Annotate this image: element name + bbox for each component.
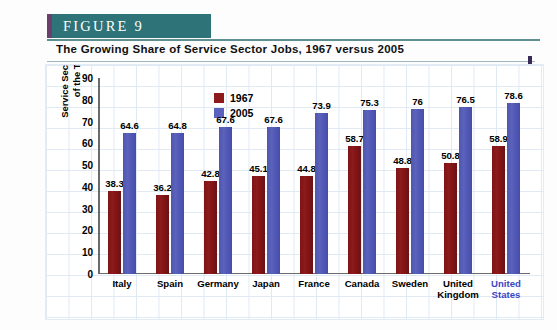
bar-value-label: 50.8 xyxy=(441,150,460,161)
bar-value-label: 48.8 xyxy=(393,155,412,166)
bar-group: 50.876.5UnitedKingdom xyxy=(434,78,482,274)
bar-value-label: 76.5 xyxy=(456,94,475,105)
plot-area: 1967 2005 9080706050403020100 38.364.6It… xyxy=(98,78,530,274)
bar-1967-sweden[interactable]: 48.8 xyxy=(396,168,409,274)
bar-slot: 58.7 xyxy=(348,78,361,274)
bar-value-label: 45.1 xyxy=(249,163,268,174)
y-tick-label: 90 xyxy=(82,73,93,84)
y-tick-label: 30 xyxy=(82,203,93,214)
bar-2005-united-states[interactable]: 78.6 xyxy=(507,103,520,274)
bar-value-label: 64.6 xyxy=(120,120,139,131)
y-tick-label: 50 xyxy=(82,160,93,171)
bar-1967-united-states[interactable]: 58.9 xyxy=(492,146,505,274)
bar-1967-spain[interactable]: 36.2 xyxy=(156,195,169,274)
bar-1967-italy[interactable]: 38.3 xyxy=(108,191,121,274)
bar-value-label: 67.6 xyxy=(216,114,235,125)
bar-slot: 45.1 xyxy=(252,78,265,274)
bar-group: 38.364.6Italy xyxy=(98,78,146,274)
bar-slot: 76.5 xyxy=(459,78,472,274)
subtitle-rule xyxy=(47,61,535,62)
bar-1967-united-kingdom[interactable]: 50.8 xyxy=(444,163,457,274)
y-tick-label: 60 xyxy=(82,138,93,149)
bar-group: 58.775.3Canada xyxy=(338,78,386,274)
bar-2005-canada[interactable]: 75.3 xyxy=(363,110,376,274)
figure-banner: FIGURE 9 xyxy=(47,14,211,38)
figure-banner-label: FIGURE 9 xyxy=(52,18,144,35)
bar-slot: 42.8 xyxy=(204,78,217,274)
bar-slot: 67.6 xyxy=(219,78,232,274)
subtitle-endcap xyxy=(528,56,532,64)
bar-group: 36.264.8Spain xyxy=(146,78,194,274)
y-axis-title-line1: Service Sector Jobs as a Percent xyxy=(59,64,70,118)
banner-rule xyxy=(47,39,540,41)
bar-1967-france[interactable]: 44.8 xyxy=(300,176,313,274)
y-tick-label: 40 xyxy=(82,181,93,192)
bar-2005-spain[interactable]: 64.8 xyxy=(171,133,184,274)
bar-1967-japan[interactable]: 45.1 xyxy=(252,176,265,274)
category-label-united-states: UnitedStates xyxy=(475,278,537,300)
bar-value-label: 75.3 xyxy=(360,97,379,108)
bar-slot: 50.8 xyxy=(444,78,457,274)
bar-value-label: 58.9 xyxy=(489,133,508,144)
bar-group: 42.867.6Germany xyxy=(194,78,242,274)
y-axis-title: Service Sector Jobs as a Percent of the … xyxy=(59,64,83,129)
bar-slot: 64.6 xyxy=(123,78,136,274)
y-tick-label: 70 xyxy=(82,116,93,127)
bar-value-label: 58.7 xyxy=(345,133,364,144)
bar-2005-japan[interactable]: 67.6 xyxy=(267,127,280,274)
figure-subtitle: The Growing Share of Service Sector Jobs… xyxy=(56,43,404,55)
bar-value-label: 67.6 xyxy=(264,114,283,125)
bar-slot: 48.8 xyxy=(396,78,409,274)
bar-2005-sweden[interactable]: 76 xyxy=(411,109,424,275)
bar-value-label: 36.2 xyxy=(153,182,172,193)
bar-value-label: 44.8 xyxy=(297,163,316,174)
bar-value-label: 78.6 xyxy=(504,90,523,101)
bar-slot: 38.3 xyxy=(108,78,121,274)
bar-group: 44.873.9France xyxy=(290,78,338,274)
bar-value-label: 76 xyxy=(412,96,423,107)
y-axis-title-line2: of the Total Labor Force xyxy=(71,64,82,97)
bar-group: 48.876Sweden xyxy=(386,78,434,274)
bar-2005-germany[interactable]: 67.6 xyxy=(219,127,232,274)
bar-slot: 76 xyxy=(411,78,424,274)
bar-1967-canada[interactable]: 58.7 xyxy=(348,146,361,274)
bar-value-label: 73.9 xyxy=(312,100,331,111)
bar-group: 58.978.6UnitedStates xyxy=(482,78,530,274)
y-tick-label: 10 xyxy=(82,247,93,258)
bar-value-label: 42.8 xyxy=(201,168,220,179)
bar-2005-italy[interactable]: 64.6 xyxy=(123,133,136,274)
bar-2005-france[interactable]: 73.9 xyxy=(315,113,328,274)
bar-slot: 75.3 xyxy=(363,78,376,274)
bar-2005-united-kingdom[interactable]: 76.5 xyxy=(459,107,472,274)
bar-group: 45.167.6Japan xyxy=(242,78,290,274)
y-tick-label: 20 xyxy=(82,225,93,236)
bar-value-label: 38.3 xyxy=(105,178,124,189)
chart-frame: Service Sector Jobs as a Percent of the … xyxy=(45,64,544,320)
bar-value-label: 64.8 xyxy=(168,120,187,131)
bar-slot: 78.6 xyxy=(507,78,520,274)
bar-1967-germany[interactable]: 42.8 xyxy=(204,181,217,274)
figure-root: FIGURE 9 The Growing Share of Service Se… xyxy=(0,0,557,330)
bar-slot: 67.6 xyxy=(267,78,280,274)
bar-slot: 73.9 xyxy=(315,78,328,274)
bar-slot: 58.9 xyxy=(492,78,505,274)
bar-slot: 64.8 xyxy=(171,78,184,274)
y-tick-label: 80 xyxy=(82,94,93,105)
bar-slot: 36.2 xyxy=(156,78,169,274)
bar-slot: 44.8 xyxy=(300,78,313,274)
